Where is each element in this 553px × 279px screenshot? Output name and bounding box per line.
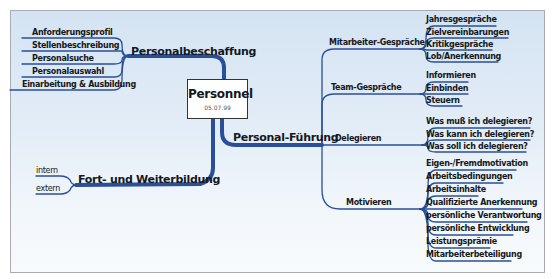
- topic-personal-fuehrung[interactable]: Personal-Führung: [233, 131, 338, 144]
- item-arbeitsbedingungen[interactable]: Arbeitsbedingungen: [426, 172, 513, 182]
- subtopic-extern[interactable]: extern: [36, 184, 60, 194]
- subtopic-personalsuche[interactable]: Personalsuche: [32, 54, 94, 64]
- subtopic-delegieren[interactable]: Delegieren: [335, 134, 381, 144]
- topic-personalbeschaffung[interactable]: Personalbeschaffung: [131, 45, 256, 58]
- item-was-soll-ich-delegieren[interactable]: Was soll ich delegieren?: [426, 142, 528, 152]
- item-mitarbeiterbeteiligung[interactable]: Mitarbeiterbeteiligung: [426, 250, 522, 260]
- item-persoenliche-entwicklung[interactable]: persönliche Entwicklung: [426, 224, 529, 234]
- subtopic-mitarbeiter-gespraeche[interactable]: Mitarbeiter-Gespräche: [329, 38, 425, 48]
- central-topic-title: Personnel: [188, 87, 247, 101]
- item-einbinden[interactable]: Einbinden: [426, 84, 468, 94]
- item-zielvereinbarungen[interactable]: Zielvereinbarungen: [426, 28, 509, 38]
- item-was-muss-ich-delegieren[interactable]: Was muß ich delegieren?: [426, 117, 532, 127]
- subtopic-einarbeitung[interactable]: Einarbeitung & Ausbildung: [22, 80, 136, 90]
- central-topic-date: 05.07.99: [188, 104, 247, 111]
- central-topic-node[interactable]: Personnel 05.07.99: [187, 79, 248, 119]
- subtopic-motivieren[interactable]: Motivieren: [346, 198, 391, 208]
- item-kritikgespraeche[interactable]: Kritikgespräche: [426, 40, 493, 50]
- item-informieren[interactable]: Informieren: [426, 71, 476, 81]
- subtopic-anforderungsprofil[interactable]: Anforderungsprofil: [32, 28, 113, 38]
- item-arbeitsinhalte[interactable]: Arbeitsinhalte: [426, 185, 486, 195]
- subtopic-team-gespraeche[interactable]: Team-Gespräche: [331, 83, 401, 93]
- subtopic-personalauswahl[interactable]: Personalauswahl: [32, 67, 104, 77]
- item-persoenliche-verantwortung[interactable]: persönliche Verantwortung: [426, 211, 542, 221]
- item-jahresgespraeche[interactable]: Jahresgespräche: [426, 15, 497, 25]
- branch-personalbeschaffung: [128, 56, 224, 79]
- item-steuern[interactable]: Steuern: [426, 96, 460, 106]
- subtopic-stellenbeschreibung[interactable]: Stellenbeschreibung: [32, 41, 119, 51]
- topic-weiterbildung[interactable]: Fort- und Weiterbildung: [78, 173, 220, 186]
- subtopic-intern[interactable]: intern: [36, 166, 58, 176]
- item-leistungspraemie[interactable]: Leistungsprämie: [426, 237, 497, 247]
- item-lob-anerkennung[interactable]: Lob/Anerkennung: [426, 52, 501, 62]
- item-eigen-fremdmotivation[interactable]: Eigen-/Fremdmotivation: [426, 159, 528, 169]
- item-qualifizierte-anerkennung[interactable]: Qualifizierte Anerkennung: [426, 198, 537, 208]
- item-was-kann-ich-delegieren[interactable]: Was kann ich delegieren?: [426, 130, 534, 140]
